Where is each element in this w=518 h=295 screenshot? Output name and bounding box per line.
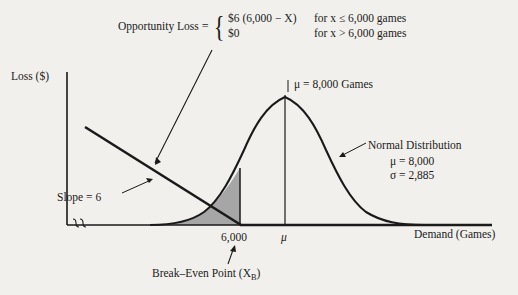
- formula-equals: =: [202, 20, 209, 34]
- normal-distribution-label: Normal Distribution: [368, 139, 462, 152]
- normal-distribution-leader-line: [339, 143, 366, 157]
- formula-case-row: $6 (6,000 − X) for x ≤ 6,000 games: [228, 12, 406, 27]
- formula-label: Opportunity Loss: [118, 20, 199, 33]
- break-even-leader-line: [228, 245, 236, 264]
- opportunity-loss-line: [85, 127, 241, 225]
- y-axis-label: Loss ($): [11, 70, 49, 83]
- formula-case-value: $0: [228, 27, 314, 40]
- break-even-tick-label: 6,000: [221, 231, 247, 244]
- slope-label: Slope = 6: [57, 191, 101, 204]
- normal-sigma-label: σ = 2,885: [390, 168, 434, 182]
- formula-case-row: $0 for x > 6,000 games: [228, 27, 406, 42]
- break-even-point-caption: Break–Even Point (XB): [152, 267, 260, 283]
- break-even-caption-text: Break–Even Point (X: [152, 267, 251, 279]
- formula-brace-icon: {: [213, 13, 224, 39]
- mean-demand-label: μ = 8,000 Games: [294, 78, 373, 91]
- normal-mean-label: μ = 8,000: [390, 154, 434, 168]
- formula-cases: $6 (6,000 − X) for x ≤ 6,000 games $0 fo…: [228, 12, 406, 42]
- formula-case-condition: for x > 6,000 games: [314, 27, 406, 40]
- slope-leader-line: [122, 178, 153, 193]
- formula-leader-line: [155, 50, 212, 165]
- normal-parameters: μ = 8,000 σ = 2,885: [390, 154, 434, 182]
- opportunity-loss-figure: Opportunity Loss = { $6 (6,000 − X) for …: [0, 0, 518, 295]
- normal-distribution-curve: [150, 97, 424, 225]
- x-axis-label: Demand (Games): [414, 228, 495, 241]
- formula-case-condition: for x ≤ 6,000 games: [314, 12, 406, 25]
- opportunity-loss-formula: Opportunity Loss = { $6 (6,000 − X) for …: [118, 12, 406, 42]
- break-even-caption-tail: ): [257, 267, 261, 279]
- formula-case-value: $6 (6,000 − X): [228, 12, 314, 25]
- mu-tick-label: μ: [281, 231, 287, 244]
